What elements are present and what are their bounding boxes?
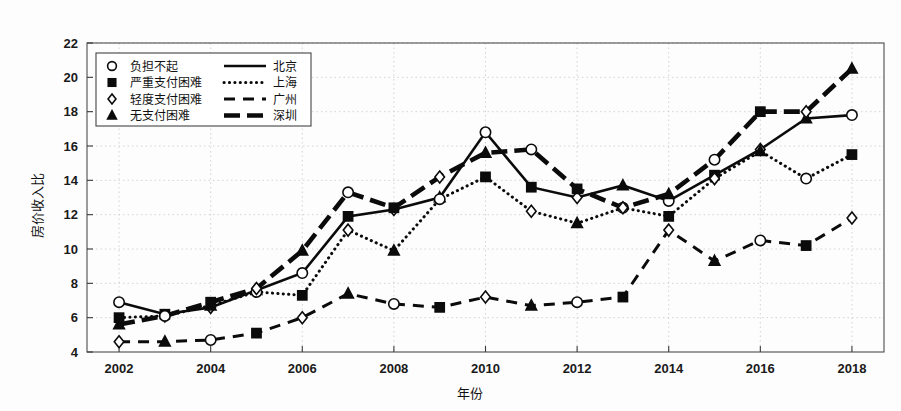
data-point (709, 155, 719, 165)
x-tick-label: 2006 (288, 361, 317, 376)
y-tick-label: 20 (64, 70, 78, 85)
data-point (801, 173, 811, 183)
data-point (298, 291, 307, 300)
legend-marker-label: 负担不起 (130, 60, 178, 74)
data-point (435, 303, 444, 312)
legend-marker-label: 无支付困难 (130, 109, 190, 123)
data-point (755, 235, 765, 245)
y-axis-ticks: 46810121416182022 (64, 36, 93, 360)
chart-legend: 负担不起严重支付困难轻度支付困难无支付困难北京上海广州深圳 (96, 53, 311, 126)
data-point (527, 183, 536, 192)
data-point (664, 212, 673, 221)
y-tick-label: 14 (64, 173, 79, 188)
data-point (847, 150, 856, 159)
data-point (802, 241, 811, 250)
data-point (572, 297, 582, 307)
y-tick-label: 12 (64, 207, 78, 222)
data-point (343, 288, 354, 298)
data-point (526, 144, 536, 154)
y-tick-label: 10 (64, 242, 78, 257)
y-tick-label: 8 (71, 276, 78, 291)
data-point (389, 299, 399, 309)
data-point (389, 203, 398, 212)
chart-figure: 46810121416182022 2002200420062008201020… (0, 0, 901, 411)
line-chart-plot: 46810121416182022 2002200420062008201020… (0, 0, 901, 411)
x-axis-title: 年份 (457, 386, 483, 401)
y-axis-title: 房价收入比 (30, 173, 45, 238)
legend-marker-label: 轻度支付困难 (130, 92, 202, 107)
data-point (480, 127, 490, 137)
data-point (756, 107, 765, 116)
data-point (527, 205, 537, 217)
x-tick-label: 2002 (105, 361, 134, 376)
y-tick-label: 6 (71, 310, 78, 325)
data-point (343, 187, 353, 197)
data-point (847, 110, 857, 120)
data-point (618, 292, 627, 301)
data-point (297, 268, 307, 278)
y-tick-label: 22 (64, 36, 78, 51)
data-point (847, 212, 857, 224)
x-tick-label: 2018 (837, 361, 866, 376)
data-point (481, 291, 491, 303)
y-tick-label: 4 (71, 345, 79, 360)
data-point (297, 312, 307, 324)
data-point (573, 184, 582, 193)
data-point (618, 180, 629, 190)
data-point (480, 147, 491, 157)
data-point (206, 298, 215, 307)
legend-line-label: 深圳 (273, 109, 297, 123)
data-point (160, 311, 170, 321)
y-tick-label: 16 (64, 139, 78, 154)
data-point (114, 336, 124, 348)
legend-line-label: 北京 (273, 60, 297, 74)
x-tick-label: 2014 (654, 361, 684, 376)
legend-line-label: 广州 (273, 93, 297, 107)
data-point (114, 297, 124, 307)
data-point (481, 172, 490, 181)
x-tick-label: 2004 (196, 361, 226, 376)
x-tick-label: 2008 (379, 361, 408, 376)
legend-circle-icon (108, 62, 117, 71)
data-point (252, 329, 261, 338)
x-tick-label: 2010 (471, 361, 500, 376)
legend-marker-label: 严重支付困难 (130, 76, 202, 90)
data-point (434, 194, 444, 204)
x-tick-label: 2016 (746, 361, 775, 376)
data-point (205, 335, 215, 345)
legend-square-icon (108, 79, 115, 86)
y-tick-label: 18 (64, 104, 78, 119)
data-point (344, 212, 353, 221)
x-axis-ticks: 200220042006200820102012201420162018 (105, 346, 867, 376)
data-point (343, 224, 353, 236)
data-point (847, 63, 858, 73)
legend-line-label: 上海 (273, 75, 297, 90)
x-tick-label: 2012 (563, 361, 592, 376)
